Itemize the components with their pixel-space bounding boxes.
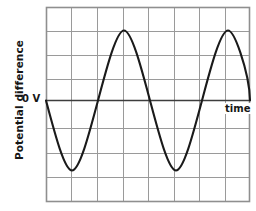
graph-figure: Potential difference 0 V: [0, 0, 256, 211]
plot-area: [0, 0, 256, 211]
x-axis-label: time: [224, 103, 251, 114]
